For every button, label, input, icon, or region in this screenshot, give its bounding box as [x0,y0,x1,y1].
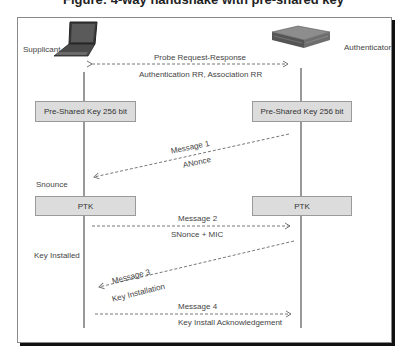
key-installed-label: Key Installed [34,251,80,260]
laptop-icon [54,22,97,56]
authenticator-psk-box: Pre-Shared Key 256 bit [252,101,352,122]
authenticator-ptk-box: PTK [252,196,352,216]
supplicant-ptk-box: PTK [35,196,136,216]
message2-title: Message 2 [178,214,217,223]
message4-title: Message 4 [178,302,217,311]
message2-payload: SNonce + MIC [171,230,223,239]
authenticator-label: Authenticator [344,43,391,52]
probe-bottom-label: Authentication RR, Association RR [139,70,262,79]
access-point-icon [272,26,330,48]
probe-top-label: Probe Request-Response [154,53,246,62]
snounce-label: Snounce [36,180,68,189]
message1-arrow [94,134,289,177]
supplicant-label: Supplicant [23,45,60,54]
message4-payload: Key Install Acknowledgement [178,318,282,327]
figure-title-cropped: Figure: 4-way handshake with pre-shared … [0,0,407,7]
supplicant-psk-box: Pre-Shared Key 256 bit [35,101,136,122]
